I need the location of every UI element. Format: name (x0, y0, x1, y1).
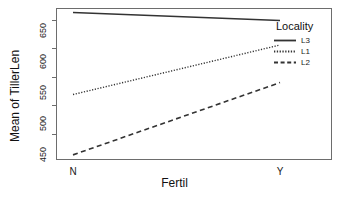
legend-key-solid-icon (274, 36, 296, 45)
series-line-l2 (73, 83, 280, 155)
legend: Locality L3 L1 L2 (274, 20, 313, 69)
legend-item-label-l2: L2 (301, 58, 310, 67)
legend-title: Locality (276, 20, 313, 32)
interaction-plot: Mean of TillerLen 650 600 550 500 450 N … (0, 0, 349, 197)
legend-key-dotted-icon (274, 47, 296, 56)
legend-item-label-l1: L1 (301, 47, 310, 56)
series-line-l1 (73, 45, 280, 95)
legend-item-l3[interactable]: L3 (274, 36, 313, 45)
legend-item-label-l3: L3 (301, 36, 310, 45)
legend-key-dashed-icon (274, 58, 296, 67)
data-series-group (73, 13, 280, 155)
series-line-l3 (73, 13, 280, 21)
legend-item-l2[interactable]: L2 (274, 58, 313, 67)
y-axis-ticks (52, 21, 56, 135)
legend-item-l1[interactable]: L1 (274, 47, 313, 56)
